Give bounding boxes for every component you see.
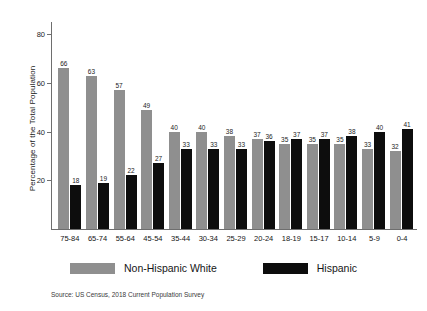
bar-hispanic-wrap: 19 [98, 22, 109, 229]
bar-value-label: 27 [155, 155, 162, 162]
y-axis-tick-label: 40 [37, 127, 45, 136]
bar-hispanic[interactable]: 33 [181, 149, 192, 229]
bar-non-hispanic-white-wrap: 35 [307, 22, 318, 229]
bar-value-label: 41 [403, 121, 410, 128]
bar-value-label: 33 [183, 141, 190, 148]
x-axis-label-20-24: 20-24 [250, 234, 278, 243]
bar-hispanic[interactable]: 37 [291, 139, 302, 229]
bar-value-label: 33 [238, 141, 245, 148]
bar-hispanic-wrap: 36 [264, 22, 275, 229]
bar-group: 5722 [111, 22, 139, 229]
bar-non-hispanic-white-wrap: 33 [362, 22, 373, 229]
bar-hispanic-wrap: 33 [181, 22, 192, 229]
bar-value-label: 40 [171, 124, 178, 131]
bar-hispanic[interactable]: 22 [126, 175, 137, 229]
bar-hispanic[interactable]: 37 [319, 139, 330, 229]
x-axis-labels: 75-8465-7455-6445-5435-4430-3425-2920-24… [52, 234, 418, 243]
x-axis-label-45-54: 45-54 [139, 234, 167, 243]
chart-legend: Non-Hispanic White Hispanic [0, 262, 427, 274]
bar-value-label: 36 [265, 133, 272, 140]
bar-hispanic[interactable]: 38 [346, 136, 357, 229]
x-axis-label-30-34: 30-34 [194, 234, 222, 243]
bar-non-hispanic-white[interactable]: 40 [196, 132, 207, 229]
x-axis-label-75-84: 75-84 [56, 234, 84, 243]
bar-non-hispanic-white[interactable]: 33 [362, 149, 373, 229]
bar-non-hispanic-white-wrap: 66 [58, 22, 69, 229]
y-axis-tick-label: 80 [37, 30, 45, 39]
x-axis-label-15-17: 15-17 [305, 234, 333, 243]
bar-hispanic-wrap: 18 [70, 22, 81, 229]
bar-hispanic[interactable]: 19 [98, 183, 109, 229]
bar-value-label: 38 [348, 128, 355, 135]
bar-hispanic-wrap: 33 [236, 22, 247, 229]
bar-value-label: 33 [364, 141, 371, 148]
legend-label-hispanic: Hispanic [317, 262, 357, 274]
bar-non-hispanic-white-wrap: 35 [279, 22, 290, 229]
bar-value-label: 35 [281, 136, 288, 143]
bar-non-hispanic-white[interactable]: 40 [169, 132, 180, 229]
bar-groups: 6618631957224927403340333833373635373537… [52, 22, 417, 229]
bar-non-hispanic-white-wrap: 63 [86, 22, 97, 229]
bar-group: 3537 [277, 22, 305, 229]
bar-value-label: 40 [198, 124, 205, 131]
bar-group: 4033 [166, 22, 194, 229]
legend-label-non-hispanic-white: Non-Hispanic White [124, 262, 217, 274]
bar-non-hispanic-white-wrap: 40 [169, 22, 180, 229]
bar-value-label: 33 [210, 141, 217, 148]
bar-group: 6319 [84, 22, 112, 229]
x-axis-label-35-44: 35-44 [167, 234, 195, 243]
bar-group: 3340 [360, 22, 388, 229]
bar-non-hispanic-white-wrap: 35 [334, 22, 345, 229]
bar-group: 4033 [194, 22, 222, 229]
bar-non-hispanic-white-wrap: 57 [114, 22, 125, 229]
y-axis-tick [47, 34, 51, 35]
bar-hispanic-wrap: 38 [346, 22, 357, 229]
bar-hispanic[interactable]: 33 [208, 149, 219, 229]
x-axis-label-10-14: 10-14 [333, 234, 361, 243]
bar-hispanic-wrap: 22 [126, 22, 137, 229]
bar-group: 3833 [222, 22, 250, 229]
bar-hispanic[interactable]: 40 [374, 132, 385, 229]
bar-value-label: 63 [88, 68, 95, 75]
bar-non-hispanic-white[interactable]: 35 [279, 144, 290, 229]
x-axis-line [51, 229, 417, 230]
bar-non-hispanic-white[interactable]: 66 [58, 68, 69, 229]
bar-hispanic[interactable]: 27 [153, 163, 164, 229]
bar-value-label: 32 [391, 143, 398, 150]
bar-group: 6618 [56, 22, 84, 229]
bar-group: 4927 [139, 22, 167, 229]
bar-non-hispanic-white[interactable]: 63 [86, 76, 97, 229]
bar-hispanic-wrap: 40 [374, 22, 385, 229]
bar-non-hispanic-white[interactable]: 35 [334, 144, 345, 229]
x-axis-label-0-4: 0-4 [388, 234, 416, 243]
bar-chart: Percentage of the Total Population 20406… [0, 0, 427, 311]
bar-hispanic[interactable]: 18 [70, 185, 81, 229]
bar-group: 3241 [387, 22, 415, 229]
bar-hispanic[interactable]: 41 [402, 129, 413, 229]
bar-group: 3538 [332, 22, 360, 229]
bar-non-hispanic-white[interactable]: 57 [114, 90, 125, 229]
bar-non-hispanic-white-wrap: 37 [252, 22, 263, 229]
bar-value-label: 40 [376, 124, 383, 131]
bar-non-hispanic-white[interactable]: 32 [390, 151, 401, 229]
bar-non-hispanic-white-wrap: 40 [196, 22, 207, 229]
legend-swatch-icon-hispanic [263, 263, 308, 274]
bar-non-hispanic-white-wrap: 38 [224, 22, 235, 229]
legend-item-hispanic: Hispanic [263, 262, 357, 274]
bar-value-label: 37 [293, 131, 300, 138]
bar-hispanic-wrap: 37 [291, 22, 302, 229]
bar-hispanic[interactable]: 33 [236, 149, 247, 229]
bar-non-hispanic-white[interactable]: 38 [224, 136, 235, 229]
bar-non-hispanic-white-wrap: 32 [390, 22, 401, 229]
bar-value-label: 19 [100, 175, 107, 182]
bar-non-hispanic-white[interactable]: 35 [307, 144, 318, 229]
plot-area: 20406080 6618631957224927403340333833373… [51, 22, 417, 230]
x-axis-label-65-74: 65-74 [84, 234, 112, 243]
x-axis-label-5-9: 5-9 [361, 234, 389, 243]
bar-hispanic[interactable]: 36 [264, 141, 275, 229]
bar-group: 3736 [249, 22, 277, 229]
y-axis-tick [47, 83, 51, 84]
bar-non-hispanic-white[interactable]: 37 [252, 139, 263, 229]
bar-non-hispanic-white[interactable]: 49 [141, 110, 152, 229]
bar-value-label: 37 [321, 131, 328, 138]
